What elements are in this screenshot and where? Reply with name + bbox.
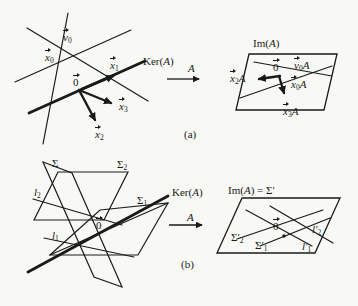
label-sigma1-prime: Σ′1: [255, 240, 268, 252]
x2A-vector-arrow: [259, 76, 280, 79]
label-sigma2: Σ2: [117, 159, 127, 171]
label-x2A: x2A: [230, 73, 245, 85]
panel-a-domain: [15, 13, 148, 144]
label-l2-prime: l′2: [312, 224, 321, 236]
label-map-a-b: A: [187, 212, 194, 224]
label-zero-b-domain: 0: [96, 220, 102, 232]
vector-arrow-icon: 0: [73, 77, 79, 89]
vector-arrow-icon: v: [63, 32, 68, 44]
x1-vector-arrow: [82, 76, 113, 89]
image-line-x0A: [240, 66, 332, 98]
vector-arrow-icon: v: [294, 60, 299, 72]
label-im-a-sigma-title: Im(A) = Σ′: [228, 185, 275, 197]
vector-arrow-icon: x: [291, 79, 296, 91]
figure-kernel-image-of-A: v0x0x1Ker(A)0x3x2A(a)Im(A)v0A0x2Ax0Ax3AΣ…: [0, 0, 358, 306]
line-through-v0: [27, 28, 148, 101]
label-caption-a: (a): [184, 129, 196, 141]
label-x0A: x0A: [291, 79, 306, 91]
vector-arrow-icon: 0: [96, 220, 102, 232]
label-l1: l1: [52, 230, 59, 242]
label-map-a: A: [188, 63, 195, 75]
label-ker-a: Ker(A): [143, 56, 174, 68]
label-x0: x0: [45, 52, 54, 64]
vector-arrow-icon: x: [110, 60, 115, 72]
vector-arrow-icon: x: [119, 101, 124, 113]
vector-arrow-icon: x: [95, 129, 100, 141]
label-sigma1: Σ1: [137, 195, 147, 207]
label-zero-b-image: 0: [273, 221, 279, 233]
label-zero-a-image: 0: [273, 62, 279, 74]
origin-dot-b-image: [282, 234, 285, 237]
label-l1-prime: l′1: [302, 241, 311, 253]
label-ker-a-b: Ker(A): [172, 187, 203, 199]
image-line-sigma2-prime: [237, 210, 323, 239]
label-v0: v0: [63, 32, 72, 44]
label-caption-b: (b): [181, 259, 194, 271]
label-zero-a-domain: 0: [73, 77, 79, 89]
label-v0A: v0A: [294, 60, 309, 72]
label-im-a-title: Im(A): [253, 38, 279, 50]
label-sigma2-prime: Σ′2: [231, 232, 244, 244]
vector-arrow-icon: x: [230, 73, 235, 85]
label-sigma: Σ: [52, 158, 58, 170]
vector-arrow-icon: x: [45, 52, 50, 64]
vector-arrow-icon: 0: [273, 62, 279, 74]
plane-sigma: [43, 162, 122, 287]
vector-arrow-icon: x: [283, 106, 288, 118]
vector-arrow-icon: 0: [273, 221, 279, 233]
figure-drawing: [0, 0, 358, 306]
label-x1: x1: [110, 60, 119, 72]
label-x3: x3: [119, 101, 128, 113]
image-line-v0A: [254, 62, 332, 76]
label-x2: x2: [95, 129, 104, 141]
label-l2: l2: [34, 187, 41, 199]
label-x3A: x3A: [283, 106, 298, 118]
